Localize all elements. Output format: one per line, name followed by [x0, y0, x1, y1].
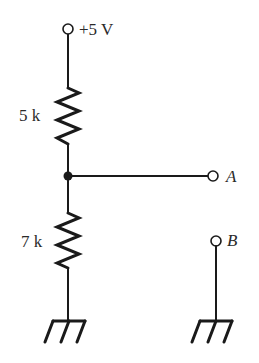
supply-label: +5 V: [79, 20, 114, 39]
ground-left-icon: [45, 321, 85, 342]
resistor-r2: 7 k: [21, 213, 79, 268]
terminal-b-label: B: [227, 231, 238, 250]
resistor-r2-label: 7 k: [21, 232, 43, 251]
terminal-a-label: A: [225, 167, 237, 186]
resistor-r1: 5 k: [19, 88, 79, 144]
resistor-r1-zigzag: [57, 88, 79, 144]
resistor-r1-label: 5 k: [19, 106, 41, 125]
supply-terminal-circle: [63, 24, 73, 34]
terminal-a: A: [208, 167, 237, 186]
terminal-b-circle: [211, 236, 221, 246]
ground-right-icon: [192, 321, 232, 342]
supply-terminal: +5 V: [63, 20, 114, 88]
resistor-r2-zigzag: [57, 213, 79, 268]
terminal-a-circle: [208, 171, 218, 181]
terminal-b: B: [211, 231, 238, 321]
circuit-diagram: +5 V 5 k A 7 k B: [0, 0, 259, 363]
